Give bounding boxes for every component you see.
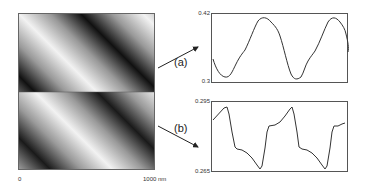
- plot-a-y-top-label: 0.42: [186, 10, 210, 16]
- plot-a: [211, 13, 348, 83]
- label-a: (a): [174, 56, 187, 68]
- plot-b-line: [212, 102, 349, 173]
- plot-b: [211, 101, 348, 172]
- plot-a-line: [212, 14, 349, 84]
- plot-b-y-top-label: 0.295: [186, 98, 210, 104]
- plot-b-y-bottom-label: 0.265: [186, 168, 210, 174]
- label-b: (b): [174, 122, 187, 134]
- plot-a-y-bottom-label: 0.3: [186, 78, 210, 84]
